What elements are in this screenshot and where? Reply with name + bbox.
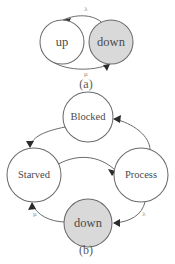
node-up[interactable]: up: [40, 20, 84, 64]
node-label: Starved: [18, 169, 51, 180]
arrowhead-icon: [103, 64, 110, 71]
edge-process-to-down: λ: [113, 202, 146, 227]
edge-down-to-starved: μ: [28, 202, 66, 222]
node-starved[interactable]: Starved: [7, 148, 61, 202]
arrowhead-icon: [26, 141, 34, 148]
arrowhead-icon: [113, 115, 121, 123]
node-down-b[interactable]: down: [64, 199, 112, 247]
node-label: Blocked: [71, 111, 107, 122]
state-diagram-figure: λ μ up down (a): [0, 0, 175, 264]
arrowhead-icon: [113, 219, 120, 227]
edge-blocked-to-starved: [26, 127, 65, 148]
node-label: Process: [125, 169, 157, 180]
edge-path: [114, 119, 150, 150]
edge-starved-to-process: [55, 157, 116, 176]
edge-process-to-blocked: [113, 115, 150, 150]
figure-canvas: λ μ up down (a): [0, 0, 175, 264]
node-process[interactable]: Process: [114, 148, 168, 202]
node-label: up: [56, 35, 69, 49]
node-down-a[interactable]: down: [89, 20, 133, 64]
edge-label-mu-b: μ: [33, 210, 37, 218]
edge-label-lambda-a: λ: [84, 5, 88, 13]
panel-b: μ λ Blocked Starved Process: [7, 92, 168, 257]
edge-label-lambda-b: λ: [142, 210, 146, 218]
edge-path: [32, 203, 66, 222]
caption-panel-a: (a): [79, 77, 92, 91]
caption-panel-b: (b): [79, 243, 93, 257]
edge-path: [55, 157, 115, 170]
edge-path: [30, 127, 65, 147]
node-blocked[interactable]: Blocked: [63, 92, 113, 142]
node-label: down: [97, 35, 126, 49]
node-label: down: [74, 216, 103, 230]
panel-a: λ μ up down (a): [40, 5, 133, 91]
